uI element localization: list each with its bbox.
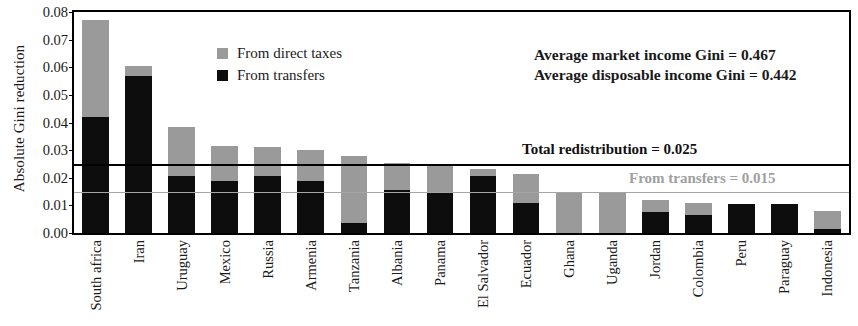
bar-segment-direct-taxes bbox=[814, 211, 841, 229]
bar-segment-direct-taxes bbox=[125, 66, 152, 76]
x-tick-label-wrap: Panama bbox=[418, 238, 461, 326]
bar-russia bbox=[254, 147, 281, 233]
x-tick-label: El Salvador bbox=[476, 240, 491, 308]
y-tick-mark bbox=[69, 178, 74, 179]
y-tick-mark bbox=[69, 67, 74, 68]
bar-colombia bbox=[685, 203, 712, 233]
square-black-icon bbox=[217, 70, 228, 81]
x-tick-label: Panama bbox=[433, 240, 448, 286]
x-tick-label: Ghana bbox=[562, 240, 577, 278]
x-axis-tick-labels: South africaIranUruguayMexicoRussiaArmen… bbox=[72, 238, 851, 326]
x-tick-label-wrap: Armenia bbox=[289, 238, 332, 326]
bar-albania bbox=[384, 163, 411, 233]
y-tick-label: 0.03 bbox=[43, 143, 68, 158]
bar-segment-direct-taxes bbox=[556, 193, 583, 233]
y-tick-mark bbox=[69, 95, 74, 96]
y-axis-tick-labels: 0.000.010.020.030.040.050.060.070.08 bbox=[22, 0, 68, 236]
bar-uganda bbox=[599, 193, 626, 233]
x-tick-label: Peru bbox=[734, 240, 749, 267]
bar-segment-transfers bbox=[384, 190, 411, 233]
y-tick-label: 0.00 bbox=[43, 226, 68, 241]
annotation-market-gini: Average market income Gini = 0.467 bbox=[534, 45, 797, 65]
y-tick-label: 0.06 bbox=[43, 60, 68, 75]
legend-label-direct-taxes: From direct taxes bbox=[237, 45, 342, 62]
bar-segment-transfers bbox=[211, 181, 238, 233]
reference-label-total-redistribution: Total redistribution = 0.025 bbox=[522, 141, 697, 158]
x-tick-label: Jordan bbox=[648, 240, 663, 279]
legend-item-direct-taxes: From direct taxes bbox=[217, 45, 342, 62]
y-tick-mark bbox=[69, 12, 74, 13]
reference-line-from-transfers bbox=[74, 192, 849, 193]
bar-ecuador bbox=[513, 174, 540, 233]
bar-segment-direct-taxes bbox=[384, 163, 411, 191]
x-tick-label-wrap: Albania bbox=[375, 238, 418, 326]
x-tick-label-wrap: Jordan bbox=[634, 238, 677, 326]
x-tick-label: Tanzania bbox=[347, 240, 362, 292]
bar-indonesia bbox=[814, 211, 841, 233]
bar-paraguay bbox=[771, 204, 798, 233]
x-tick-label: Albania bbox=[390, 240, 405, 286]
x-tick-label-wrap: Iran bbox=[117, 238, 160, 326]
bar-segment-direct-taxes bbox=[168, 127, 195, 177]
x-tick-label: Uganda bbox=[605, 240, 620, 285]
bar-segment-transfers bbox=[470, 176, 497, 233]
bar-segment-direct-taxes bbox=[513, 174, 540, 203]
x-tick-label-wrap: Ghana bbox=[548, 238, 591, 326]
y-tick-mark bbox=[69, 150, 74, 151]
bar-jordan bbox=[642, 200, 669, 233]
bar-segment-transfers bbox=[125, 76, 152, 233]
y-tick-mark bbox=[69, 233, 74, 234]
bar-segment-transfers bbox=[254, 176, 281, 233]
bar-segment-direct-taxes bbox=[599, 193, 626, 233]
plot-inner: Total redistribution = 0.025 From transf… bbox=[74, 12, 849, 233]
x-tick-label-wrap: Mexico bbox=[203, 238, 246, 326]
gini-reduction-chart: Absolute Gini reduction 0.000.010.020.03… bbox=[0, 0, 858, 326]
bar-south-africa bbox=[82, 20, 109, 233]
bar-segment-direct-taxes bbox=[642, 200, 669, 212]
bar-segment-transfers bbox=[814, 229, 841, 233]
bar-segment-transfers bbox=[513, 203, 540, 233]
y-tick-mark bbox=[69, 123, 74, 124]
x-tick-label-wrap: Tanzania bbox=[332, 238, 375, 326]
y-tick-mark bbox=[69, 40, 74, 41]
bar-el-salvador bbox=[470, 169, 497, 233]
annotation-block: Average market income Gini = 0.467 Avera… bbox=[534, 45, 797, 86]
y-tick-label: 0.01 bbox=[43, 198, 68, 213]
bar-segment-transfers bbox=[427, 192, 454, 233]
y-tick-label: 0.04 bbox=[43, 115, 68, 130]
x-tick-label: Indonesia bbox=[820, 240, 835, 296]
y-tick-label: 0.05 bbox=[43, 88, 68, 103]
bar-segment-direct-taxes bbox=[470, 169, 497, 176]
bar-panama bbox=[427, 165, 454, 233]
x-tick-label: Armenia bbox=[304, 240, 319, 291]
bar-segment-transfers bbox=[297, 181, 324, 233]
bar-segment-transfers bbox=[728, 204, 755, 233]
bar-ghana bbox=[556, 193, 583, 233]
bar-segment-direct-taxes bbox=[685, 203, 712, 215]
legend: From direct taxes From transfers bbox=[217, 45, 342, 89]
x-tick-label: Uruguay bbox=[174, 240, 189, 291]
bar-segment-transfers bbox=[642, 212, 669, 233]
x-tick-label: Iran bbox=[131, 240, 146, 263]
bar-segment-transfers bbox=[82, 117, 109, 233]
reference-line-total-redistribution bbox=[74, 164, 849, 166]
x-tick-label-wrap: South africa bbox=[74, 238, 117, 326]
x-tick-label: Mexico bbox=[217, 240, 232, 284]
x-tick-label-wrap: Uruguay bbox=[160, 238, 203, 326]
bar-mexico bbox=[211, 146, 238, 233]
bar-iran bbox=[125, 66, 152, 233]
bar-segment-transfers bbox=[168, 176, 195, 233]
bar-peru bbox=[728, 204, 755, 233]
square-grey-icon bbox=[217, 48, 228, 59]
x-tick-label: Ecuador bbox=[519, 240, 534, 288]
plot-area: Total redistribution = 0.025 From transf… bbox=[72, 10, 851, 235]
x-tick-label: Russia bbox=[260, 240, 275, 279]
y-tick-label: 0.08 bbox=[43, 5, 68, 20]
x-tick-label-wrap: Colombia bbox=[677, 238, 720, 326]
bar-tanzania bbox=[341, 156, 368, 233]
bar-segment-transfers bbox=[685, 215, 712, 233]
x-tick-label-wrap: Russia bbox=[246, 238, 289, 326]
x-tick-label-wrap: Ecuador bbox=[505, 238, 548, 326]
legend-item-transfers: From transfers bbox=[217, 67, 342, 84]
y-tick-mark bbox=[69, 205, 74, 206]
